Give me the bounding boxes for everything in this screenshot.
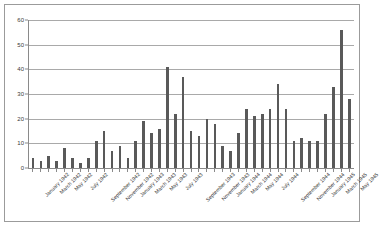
y-axis-tick-label: 10 — [17, 140, 24, 146]
bar — [111, 151, 114, 168]
bar-slot — [314, 20, 322, 168]
bar-slot — [227, 20, 235, 168]
bar-slot — [258, 20, 266, 168]
plot-area: 6050403020100 — [28, 20, 354, 168]
bar — [150, 133, 153, 168]
bar — [190, 131, 193, 168]
bar-slot — [242, 20, 250, 168]
bar — [95, 141, 98, 168]
bar — [253, 116, 256, 168]
y-axis-tick-label: 30 — [17, 91, 24, 97]
bar-slot — [61, 20, 69, 168]
bar-slot — [132, 20, 140, 168]
bar — [47, 156, 50, 168]
bars-layer — [28, 20, 354, 168]
bar-slot — [329, 20, 337, 168]
bar — [63, 148, 66, 168]
bar — [221, 146, 224, 168]
y-axis-tick-label: 60 — [17, 17, 24, 23]
bar-slot — [345, 20, 353, 168]
bar-slot — [195, 20, 203, 168]
bar-slot — [37, 20, 45, 168]
bar-slot — [140, 20, 148, 168]
bar-slot — [148, 20, 156, 168]
bar-slot — [211, 20, 219, 168]
bar — [237, 133, 240, 168]
bar — [348, 99, 351, 168]
bar — [340, 30, 343, 168]
y-axis-tick-label: 0 — [21, 165, 24, 171]
bar-slot — [298, 20, 306, 168]
bar — [174, 114, 177, 168]
bar-slot — [116, 20, 124, 168]
y-axis-tick-label: 40 — [17, 66, 24, 72]
bar — [277, 84, 280, 168]
bar-slot — [124, 20, 132, 168]
bar — [229, 151, 232, 168]
bar — [32, 158, 35, 168]
y-axis-tick-label: 20 — [17, 116, 24, 122]
bar — [142, 121, 145, 168]
bar-slot — [29, 20, 37, 168]
bar — [261, 114, 264, 168]
bar-slot — [92, 20, 100, 168]
bar-slot — [266, 20, 274, 168]
bar — [40, 161, 43, 168]
bar-slot — [282, 20, 290, 168]
bar-slot — [171, 20, 179, 168]
bar-slot — [84, 20, 92, 168]
bar-slot — [100, 20, 108, 168]
bar-slot — [179, 20, 187, 168]
bar — [332, 87, 335, 168]
bar-slot — [156, 20, 164, 168]
bar — [245, 109, 248, 168]
bar — [71, 158, 74, 168]
bar-slot — [203, 20, 211, 168]
bar — [198, 136, 201, 168]
bar — [206, 119, 209, 168]
bar — [119, 146, 122, 168]
bar-slot — [187, 20, 195, 168]
bar — [324, 114, 327, 168]
bar — [285, 109, 288, 168]
bar — [87, 158, 90, 168]
bar — [127, 158, 130, 168]
bar-slot — [219, 20, 227, 168]
x-axis-label-layer: January 1942March 1942May 1942July 1942S… — [28, 172, 354, 224]
bar — [316, 141, 319, 168]
bar — [269, 109, 272, 168]
bar-slot — [45, 20, 53, 168]
bar-slot — [53, 20, 61, 168]
bar-slot — [250, 20, 258, 168]
bar-slot — [108, 20, 116, 168]
bar-slot — [337, 20, 345, 168]
bar — [55, 161, 58, 168]
bar-slot — [69, 20, 77, 168]
bar — [158, 129, 161, 168]
bar — [134, 141, 137, 168]
bar — [103, 131, 106, 168]
bar-slot — [306, 20, 314, 168]
y-axis-tick-label: 50 — [17, 42, 24, 48]
bar — [214, 124, 217, 168]
bar-slot — [274, 20, 282, 168]
bar — [182, 77, 185, 168]
bar — [308, 141, 311, 168]
bar — [293, 141, 296, 168]
bar-slot — [235, 20, 243, 168]
bar — [166, 67, 169, 168]
bar-slot — [290, 20, 298, 168]
bar-slot — [76, 20, 84, 168]
bar — [300, 138, 303, 168]
bar-slot — [163, 20, 171, 168]
bar-slot — [322, 20, 330, 168]
